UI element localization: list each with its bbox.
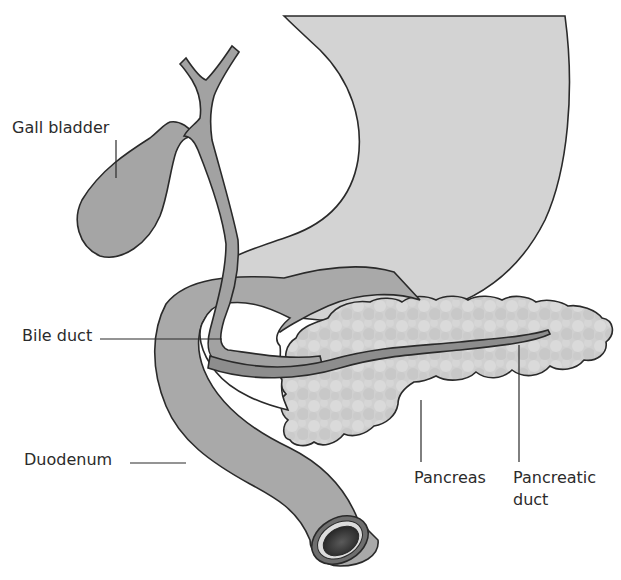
- stomach: [226, 16, 569, 320]
- digestive-anatomy-diagram: Gall bladder Bile duct Duodenum Pancreas…: [0, 0, 621, 580]
- label-pancreatic-duct-line2: duct: [513, 490, 548, 510]
- label-bile-duct: Bile duct: [22, 326, 92, 346]
- gall-bladder: [77, 122, 196, 257]
- label-pancreatic-duct-line1: Pancreatic: [513, 468, 596, 488]
- label-gall-bladder: Gall bladder: [12, 118, 109, 138]
- label-pancreas: Pancreas: [414, 468, 486, 488]
- label-duodenum: Duodenum: [24, 450, 112, 470]
